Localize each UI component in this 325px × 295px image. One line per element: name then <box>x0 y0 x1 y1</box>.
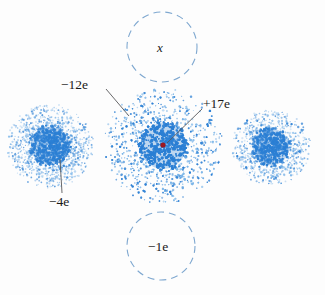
leader-minus12e <box>106 89 129 116</box>
label-left-atom-charge-text: −4e <box>49 194 69 209</box>
label-unknown-marker-text: x <box>157 40 163 55</box>
label-nucleus-charge-text: +17e <box>203 96 230 111</box>
left-electron-cloud <box>7 104 94 188</box>
label-bottom-charge: −1e <box>148 240 168 254</box>
nucleus-dot <box>160 142 165 147</box>
label-left-atom-charge: −4e <box>49 195 69 209</box>
label-shell-charge: −12e <box>61 78 88 92</box>
label-shell-charge-text: −12e <box>61 77 88 92</box>
right-electron-cloud <box>232 110 311 185</box>
label-nucleus-charge: +17e <box>203 97 230 111</box>
label-unknown-marker: x <box>157 41 163 54</box>
label-bottom-charge-text: −1e <box>148 239 168 254</box>
atom-diagram-figure: −12e +17e −4e x −1e <box>0 0 325 295</box>
